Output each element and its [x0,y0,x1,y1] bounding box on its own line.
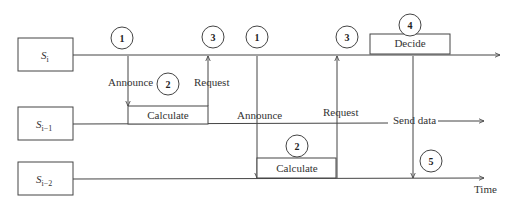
send-data-label: Send data [393,114,436,126]
step-number-5: 5 [429,156,434,167]
timeline-si-1-a [73,123,388,124]
step-number-2b: 2 [295,141,300,152]
step-number-3a: 3 [211,32,216,43]
calculate-label-2: Calculate [276,162,318,174]
step-number-1a: 1 [120,33,125,44]
decide-label: Decide [394,37,425,49]
announce-label-1: Announce [108,76,153,88]
calculate-label-1: Calculate [147,109,189,121]
time-axis-label: Time [474,183,497,195]
lane-si-2: Si−2 [18,162,484,195]
timing-diagram: Si Si−1 Si−2 Announce 1 Calculate 2 Requ… [0,0,508,203]
step-number-2a: 2 [166,79,171,90]
request-label-1: Request [194,76,229,88]
announce-label-2: Announce [237,109,282,121]
step-number-3b: 3 [345,32,350,43]
step-number-4: 4 [408,20,413,31]
request-label-2: Request [323,106,358,118]
step-number-1b: 1 [255,32,260,43]
